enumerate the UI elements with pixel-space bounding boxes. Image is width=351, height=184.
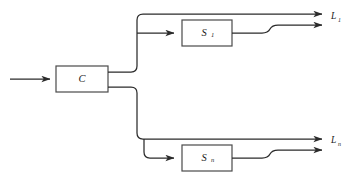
stage-1-output-wire [232,25,322,33]
lower-bypass-wire [108,87,322,139]
output-1-subscript: 1 [338,17,341,23]
block-diagram-figure: C S 1 L 1 S n L n [0,0,351,184]
output-n-subscript: n [338,141,341,147]
output-1-label: L [330,11,336,21]
block-controller-label: C [78,73,86,84]
block-stage-n-label: S [201,152,207,163]
block-stage-1-subscript: 1 [211,31,214,38]
block-stage-1-label: S [201,27,207,38]
stage-n-input-wire [144,139,174,158]
block-diagram-canvas: C S 1 L 1 S n L n [0,0,351,184]
output-n-label: L [330,135,336,145]
block-stage-1 [182,20,232,46]
block-stage-n [182,145,232,171]
block-stage-n-subscript: n [211,156,214,163]
stage-n-output-wire [232,150,322,158]
